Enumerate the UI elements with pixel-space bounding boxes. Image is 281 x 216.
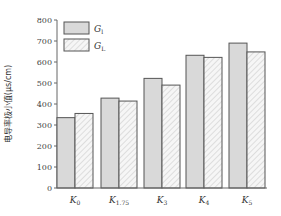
y-tick-label: 300 — [37, 121, 52, 130]
x-tick-label: K1.75 — [108, 195, 129, 206]
legend: GlGL — [64, 22, 105, 52]
legend-label-Gl: Gl — [94, 24, 103, 35]
bar-K4-GL — [204, 57, 222, 188]
y-tick-label: 700 — [37, 37, 52, 46]
y-tick-label: 200 — [37, 142, 52, 151]
legend-swatch-GL — [64, 39, 89, 51]
bar-K5-GL — [247, 52, 265, 188]
bar-chart: 0100200300400500600700800 K0K1.75K3K4K5 … — [0, 0, 281, 216]
x-tick-label: K0 — [69, 195, 81, 206]
x-axis: K0K1.75K3K4K5 — [57, 188, 267, 206]
y-axis: 0100200300400500600700800 — [37, 16, 57, 193]
y-tick-label: 500 — [37, 79, 52, 88]
legend-swatch-Gl — [64, 22, 89, 34]
bar-K1.75-Gl — [101, 98, 119, 188]
x-tick-label: K3 — [156, 195, 168, 206]
x-tick-label: K5 — [241, 195, 253, 206]
y-tick-label: 800 — [37, 16, 52, 25]
bar-K4-Gl — [186, 55, 204, 188]
y-tick-label: 400 — [37, 100, 52, 109]
y-axis-label: 电导率极小值(μs/cm) — [3, 65, 13, 143]
bar-K0-GL — [75, 113, 93, 188]
y-tick-label: 0 — [47, 184, 52, 193]
x-tick-label: K4 — [198, 195, 210, 206]
bar-K1.75-GL — [119, 101, 137, 188]
bar-K3-Gl — [144, 78, 162, 188]
bar-K5-Gl — [229, 43, 247, 188]
legend-label-GL: GL — [94, 41, 105, 52]
y-tick-label: 600 — [37, 58, 52, 67]
y-tick-label: 100 — [37, 163, 52, 172]
bar-K0-Gl — [57, 118, 75, 188]
bars — [57, 43, 265, 188]
bar-K3-GL — [162, 85, 180, 188]
